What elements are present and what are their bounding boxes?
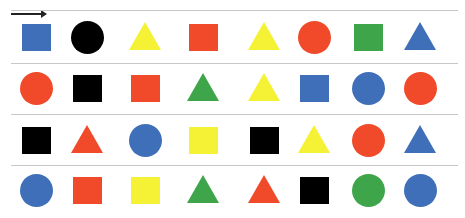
blue-square-icon — [22, 24, 51, 51]
black-square-icon — [250, 127, 279, 154]
blue-circle-icon — [404, 174, 437, 207]
green-triangle-icon — [187, 73, 219, 101]
red-square-icon — [189, 24, 218, 51]
row-divider — [11, 114, 458, 115]
yellow-triangle-icon — [298, 125, 330, 153]
blue-circle-icon — [352, 72, 385, 105]
row-divider — [11, 165, 458, 166]
row-divider — [11, 10, 458, 11]
blue-square-icon — [300, 75, 329, 102]
red-circle-icon — [298, 21, 331, 54]
yellow-triangle-icon — [248, 73, 280, 101]
green-triangle-icon — [187, 175, 219, 203]
black-square-icon — [22, 127, 51, 154]
red-square-icon — [131, 75, 160, 102]
blue-circle-icon — [129, 124, 162, 157]
red-circle-icon — [20, 72, 53, 105]
blue-triangle-icon — [404, 22, 436, 50]
green-circle-icon — [352, 174, 385, 207]
yellow-triangle-icon — [248, 22, 280, 50]
yellow-square-icon — [189, 127, 218, 154]
yellow-square-icon — [131, 177, 160, 204]
red-triangle-icon — [71, 125, 103, 153]
blue-triangle-icon — [404, 125, 436, 153]
row-divider — [11, 63, 458, 64]
red-circle-icon — [404, 72, 437, 105]
blue-circle-icon — [20, 174, 53, 207]
red-triangle-icon — [248, 175, 280, 203]
red-circle-icon — [352, 124, 385, 157]
green-square-icon — [354, 24, 383, 51]
black-square-icon — [300, 177, 329, 204]
red-square-icon — [73, 177, 102, 204]
right-arrow-icon — [11, 13, 45, 15]
black-square-icon — [73, 75, 102, 102]
yellow-triangle-icon — [129, 22, 161, 50]
black-circle-icon — [71, 21, 104, 54]
